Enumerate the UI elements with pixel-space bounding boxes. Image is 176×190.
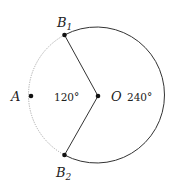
point-b2 [62,153,67,158]
circle-diagram: B1 B2 A O 120° 240° [0,0,176,190]
radius-o-b2 [65,96,99,155]
label-b2: B2 [55,165,72,182]
label-o: O [111,89,122,104]
label-b1: B1 [56,15,72,32]
angle-minor-label: 120° [54,91,79,103]
point-o [96,94,101,99]
point-b1 [62,33,67,38]
angle-major-label: 240° [127,91,152,103]
label-a: A [10,89,20,104]
point-a [29,94,34,99]
radius-o-b1 [65,35,99,96]
